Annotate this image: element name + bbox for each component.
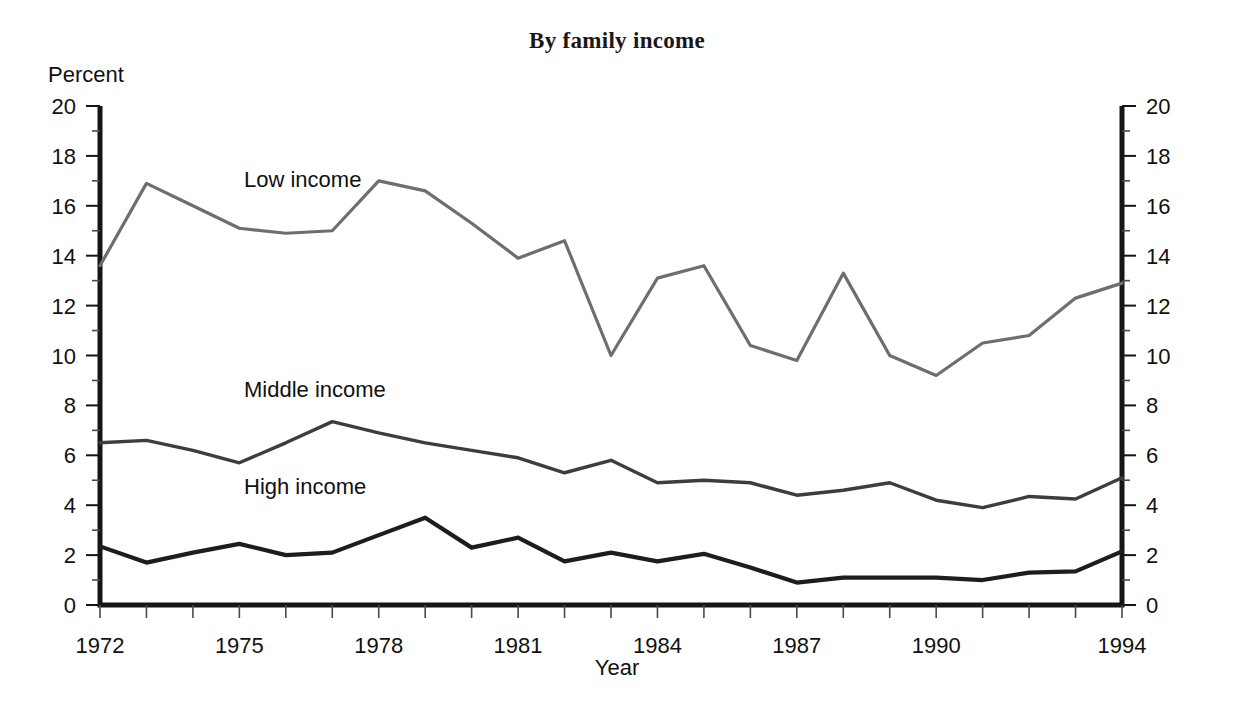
svg-text:18: 18 (52, 144, 76, 169)
svg-text:2: 2 (1146, 543, 1158, 568)
svg-text:10: 10 (52, 344, 76, 369)
svg-text:0: 0 (64, 593, 76, 618)
series-label-low-income: Low income (244, 167, 361, 192)
y-axis-left-tick-labels: 02468101214161820 (52, 94, 76, 618)
svg-text:14: 14 (1146, 244, 1170, 269)
series-label-high-income: High income (244, 474, 366, 499)
series-line-low-income (100, 181, 1122, 376)
svg-text:20: 20 (52, 94, 76, 119)
svg-text:10: 10 (1146, 344, 1170, 369)
svg-text:6: 6 (64, 443, 76, 468)
svg-text:20: 20 (1146, 94, 1170, 119)
svg-text:14: 14 (52, 244, 76, 269)
svg-text:12: 12 (52, 294, 76, 319)
line-chart-plot: 02468101214161820 02468101214161820 1972… (0, 0, 1234, 714)
svg-text:18: 18 (1146, 144, 1170, 169)
svg-text:8: 8 (1146, 393, 1158, 418)
svg-text:16: 16 (1146, 194, 1170, 219)
series-line-high-income (100, 518, 1122, 583)
svg-text:8: 8 (64, 393, 76, 418)
y-axis-right-tick-labels: 02468101214161820 (1146, 94, 1170, 618)
svg-text:12: 12 (1146, 294, 1170, 319)
series-inline-labels: Low incomeMiddle incomeHigh income (244, 167, 386, 499)
svg-text:0: 0 (1146, 593, 1158, 618)
svg-text:4: 4 (1146, 493, 1158, 518)
svg-text:16: 16 (52, 194, 76, 219)
svg-text:4: 4 (64, 493, 76, 518)
x-axis-label: Year (0, 655, 1234, 681)
svg-text:2: 2 (64, 543, 76, 568)
chart-figure: By family income Percent 024681012141618… (0, 0, 1234, 714)
svg-text:6: 6 (1146, 443, 1158, 468)
series-label-middle-income: Middle income (244, 377, 386, 402)
